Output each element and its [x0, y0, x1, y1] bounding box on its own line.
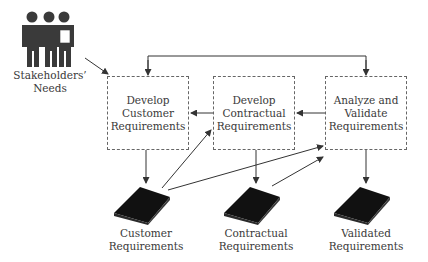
- process-label-line: Analyze and: [329, 94, 404, 107]
- process-label-line: Contractual: [217, 107, 292, 120]
- contractual-requirements-label: Contractual Requirements: [212, 227, 300, 253]
- label-line: Requirements: [212, 240, 300, 253]
- label-line: Requirements: [322, 240, 410, 253]
- validated-requirements-label: Validated Requirements: [322, 227, 410, 253]
- label-line: Customer: [102, 227, 190, 240]
- process-label-line: Requirements: [329, 120, 404, 133]
- label-line: Stakeholders’: [2, 69, 98, 82]
- book-icon: [112, 183, 172, 225]
- book-icon: [332, 183, 392, 225]
- feedback-loop-line: [148, 56, 366, 74]
- process-develop-contractual-requirements[interactable]: Develop Contractual Requirements: [213, 76, 295, 150]
- stakeholders-group-icon: [18, 10, 82, 68]
- arrow-contractual-reqs-to-validate: [272, 157, 323, 186]
- label-line: Validated: [322, 227, 410, 240]
- book-icon: [222, 183, 282, 225]
- process-label-line: Validate: [329, 107, 404, 120]
- label-line: Requirements: [102, 240, 190, 253]
- label-line: Contractual: [212, 227, 300, 240]
- process-analyze-validate-requirements[interactable]: Analyze and Validate Requirements: [325, 76, 407, 150]
- stakeholders-needs-label: Stakeholders’ Needs: [2, 69, 98, 95]
- label-line: Needs: [2, 82, 98, 95]
- process-label-line: Requirements: [217, 120, 292, 133]
- process-label-line: Develop: [217, 94, 292, 107]
- process-label-line: Customer: [111, 107, 186, 120]
- process-develop-customer-requirements[interactable]: Develop Customer Requirements: [107, 76, 189, 150]
- customer-requirements-label: Customer Requirements: [102, 227, 190, 253]
- process-label-line: Requirements: [111, 120, 186, 133]
- requirements-flow-diagram: Stakeholders’ Needs Develop Customer Req…: [0, 0, 428, 262]
- process-label-line: Develop: [111, 94, 186, 107]
